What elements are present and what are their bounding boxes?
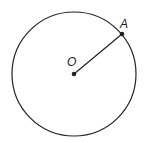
label-O: O	[67, 55, 76, 69]
label-A: A	[119, 17, 128, 31]
circle-diagram: O A	[0, 0, 145, 143]
radius-segment-OA	[74, 34, 122, 74]
center-point-O	[72, 72, 77, 77]
point-A	[120, 32, 125, 37]
